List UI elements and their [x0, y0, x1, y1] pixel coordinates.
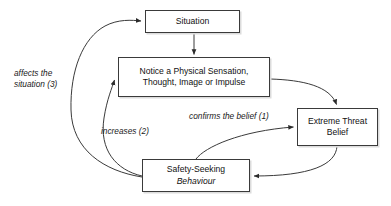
node-situation-label: Situation — [176, 16, 209, 28]
node-threat-label-line2: Belief — [327, 127, 349, 139]
node-extreme-threat-belief[interactable]: Extreme Threat Belief — [297, 108, 378, 146]
edge-safety-to-threat — [196, 127, 294, 159]
edge-label-increases: increases (2) — [101, 126, 149, 137]
node-safety-label-line2: Behaviour — [177, 176, 216, 188]
node-safety-label-line1: Safety-Seeking — [167, 164, 225, 176]
node-threat-label-line1: Extreme Threat — [308, 116, 367, 128]
edge-label-affects-line1: affects the — [14, 68, 57, 79]
edge-label-affects-line2: situation (3) — [14, 79, 57, 90]
diagram-canvas: Situation Notice a Physical Sensation, T… — [0, 0, 391, 206]
node-safety-seeking-behaviour[interactable]: Safety-Seeking Behaviour — [142, 159, 250, 192]
node-notice[interactable]: Notice a Physical Sensation, Thought, Im… — [118, 57, 270, 97]
node-notice-label-line2: Thought, Image or Impulse — [143, 77, 246, 89]
edge-threat-to-safety — [254, 146, 337, 176]
edge-label-increases-line1: increases (2) — [101, 126, 149, 137]
edge-notice-to-threat — [270, 79, 337, 105]
edge-label-confirms-the-belief: confirms the belief (1) — [189, 111, 269, 122]
edge-label-affects-the-situation: affects the situation (3) — [14, 68, 57, 90]
node-notice-label-line1: Notice a Physical Sensation, — [140, 66, 249, 78]
node-situation[interactable]: Situation — [145, 10, 240, 33]
edge-label-confirms-line1: confirms the belief (1) — [189, 111, 269, 122]
edge-safety-to-situation — [71, 20, 142, 177]
